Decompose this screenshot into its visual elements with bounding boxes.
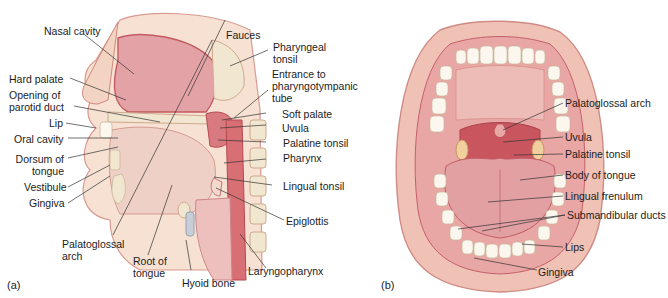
lower-incisor: [110, 150, 120, 170]
label-pharyngeal-tonsil-line1: Pharyngeal: [273, 41, 326, 53]
vertebra: [250, 148, 266, 168]
palatine-tonsil-right: [532, 140, 544, 160]
label-opening-of-parotid-duct-line1: Opening of: [9, 89, 60, 101]
label-root-of-tongue-line2: tongue: [133, 267, 165, 279]
vertebra: [250, 204, 266, 224]
label-palatoglossal-arch-a-line1: Palatoglossal: [62, 238, 124, 250]
panel-b-tag: (b): [381, 279, 394, 291]
label-pharyngeal-tonsil-line2: tonsil: [273, 53, 298, 65]
label-body-of-tongue: Body of tongue: [565, 169, 636, 181]
label-opening-of-parotid-duct-line2: parotid duct: [9, 101, 64, 113]
label-lips: Lips: [565, 241, 584, 253]
label-dorsum-of-tongue-line2: tongue: [14, 165, 64, 177]
label-hard-palate: Hard palate: [9, 73, 63, 85]
label-palatoglossal-arch-a-line2: arch: [62, 250, 82, 262]
label-soft-palate: Soft palate: [282, 108, 332, 120]
label-epiglottis: Epiglottis: [286, 215, 329, 227]
label-vestibule: Vestibule: [24, 181, 67, 193]
panel-a-tag: (a): [7, 279, 20, 291]
label-fauces: Fauces: [226, 29, 260, 41]
thyroid-cartilage: [186, 212, 194, 236]
label-gingiva-a: Gingiva: [29, 197, 65, 209]
label-lip: Lip: [49, 117, 63, 129]
label-submandibular-ducts: Submandibular ducts: [567, 209, 666, 221]
upper-incisor: [100, 122, 112, 138]
oral-anatomy-figure: Nasal cavity Hard palate Opening of paro…: [0, 0, 668, 298]
label-lingual-tonsil: Lingual tonsil: [283, 180, 344, 192]
vertebra: [250, 120, 266, 140]
palatine-tonsil-left: [456, 140, 468, 160]
vertebra: [250, 176, 266, 196]
label-uvula-a: Uvula: [282, 122, 309, 134]
palate: [456, 66, 544, 121]
label-pharynx: Pharynx: [283, 152, 322, 164]
label-nasal-cavity: Nasal cavity: [44, 25, 101, 37]
uvula: [494, 124, 506, 138]
label-gingiva-b: Gingiva: [538, 266, 574, 278]
label-uvula-b: Uvula: [565, 131, 592, 143]
label-root-of-tongue-line1: Root of: [133, 255, 167, 267]
label-hyoid-bone: Hyoid bone: [182, 277, 235, 289]
label-entrance-pharyngotympanic-line2: pharyngotympanic: [272, 80, 358, 92]
label-laryngopharynx: Laryngopharynx: [248, 265, 323, 277]
label-palatine-tonsil-b: Palatine tonsil: [565, 148, 630, 160]
label-palatine-tonsil-a: Palatine tonsil: [283, 137, 348, 149]
label-lingual-frenulum: Lingual frenulum: [565, 190, 643, 202]
label-oral-cavity: Oral cavity: [14, 133, 64, 145]
label-dorsum-of-tongue-line1: Dorsum of: [14, 153, 64, 165]
label-entrance-pharyngotympanic-line3: tube: [272, 92, 292, 104]
label-entrance-pharyngotympanic-line1: Entrance to: [272, 68, 326, 80]
label-palatoglossal-arch-b: Palatoglossal arch: [565, 97, 651, 109]
vertebra: [250, 232, 266, 252]
